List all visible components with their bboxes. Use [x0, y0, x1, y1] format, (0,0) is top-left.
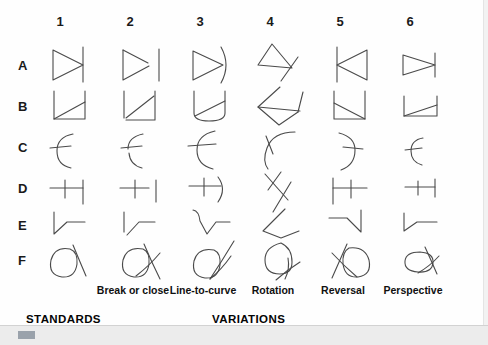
figure-sheet: 1 2 3 4 5 6 A B C D E F [0, 0, 488, 345]
cell-c3 [185, 126, 255, 172]
column-header-5: 5 [320, 14, 360, 29]
row-header-b: B [18, 99, 38, 114]
slide-bottom-band [0, 325, 488, 345]
cell-b6 [395, 88, 465, 134]
row-header-a: A [18, 58, 38, 73]
cell-a3 [185, 42, 255, 88]
column-caption-5: Reversal [306, 284, 380, 296]
cell-f3 [184, 237, 254, 283]
cell-f2 [113, 240, 183, 286]
cell-f1 [42, 240, 112, 286]
row-header-f: F [18, 253, 38, 268]
cell-a4 [255, 38, 325, 84]
column-caption-6: Perspective [376, 284, 450, 296]
column-header-4: 4 [250, 14, 290, 29]
cell-f4 [254, 238, 324, 284]
variations-label: VARIATIONS [212, 313, 285, 325]
cell-c2 [115, 128, 185, 174]
column-header-6: 6 [390, 14, 430, 29]
cell-b3 [185, 85, 255, 131]
cell-f6 [394, 242, 464, 288]
cell-a5 [325, 42, 395, 88]
cell-a6 [395, 42, 465, 88]
cell-a2 [115, 42, 185, 88]
slide-accent-block [18, 331, 35, 339]
column-caption-3: Line-to-curve [166, 284, 240, 296]
standards-label: STANDARDS [26, 313, 101, 325]
column-caption-2: Break or close [96, 284, 170, 296]
cell-c4 [253, 126, 323, 172]
row-header-d: D [18, 181, 38, 196]
cell-f5 [324, 240, 394, 286]
row-header-e: E [18, 218, 38, 233]
cell-c1 [45, 128, 115, 174]
cell-a1 [45, 42, 115, 88]
cell-c6 [397, 131, 467, 177]
cell-b1 [45, 85, 115, 131]
cell-c5 [325, 128, 395, 174]
column-caption-4: Rotation [236, 284, 310, 296]
column-header-1: 1 [40, 14, 80, 29]
column-header-2: 2 [110, 14, 150, 29]
slide-right-edge [483, 0, 488, 326]
cell-b4 [253, 84, 323, 130]
column-header-3: 3 [180, 14, 220, 29]
cell-b2 [115, 85, 185, 131]
row-header-c: C [18, 140, 38, 155]
cell-b5 [325, 85, 395, 131]
